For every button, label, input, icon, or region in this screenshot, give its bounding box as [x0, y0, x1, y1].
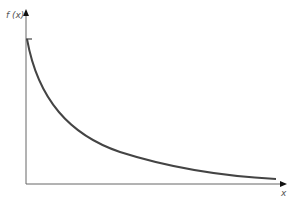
- y-axis-label: f (x): [6, 10, 24, 20]
- chart-canvas: [0, 0, 296, 201]
- decay-curve: [27, 39, 276, 179]
- x-axis-label: x: [281, 188, 286, 198]
